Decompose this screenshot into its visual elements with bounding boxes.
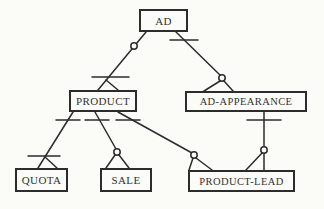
entity-ad-appearance-label: AD-APPEARANCE xyxy=(200,96,293,107)
entity-product-lead: PRODUCT-LEAD xyxy=(188,170,295,192)
entity-product-lead-label: PRODUCT-LEAD xyxy=(199,176,283,187)
edge-adappearance-productlead xyxy=(246,112,281,170)
edge-product-quota xyxy=(28,112,80,168)
er-diagram: AD PRODUCT AD-APPEARANCE QUOTA SALE PROD… xyxy=(0,0,324,209)
entity-sale-label: SALE xyxy=(111,174,140,186)
edge-product-productlead xyxy=(116,112,212,170)
entity-ad-label: AD xyxy=(155,15,172,27)
entity-product-label: PRODUCT xyxy=(76,95,130,107)
edge-ad-product xyxy=(92,32,146,90)
edge-ad-adappearance xyxy=(170,32,233,91)
entity-quota-label: QUOTA xyxy=(22,174,62,186)
entity-ad: AD xyxy=(139,9,188,32)
entity-ad-appearance: AD-APPEARANCE xyxy=(185,91,307,112)
entity-product: PRODUCT xyxy=(69,90,137,112)
entity-quota: QUOTA xyxy=(15,168,68,192)
entity-sale: SALE xyxy=(100,168,152,192)
